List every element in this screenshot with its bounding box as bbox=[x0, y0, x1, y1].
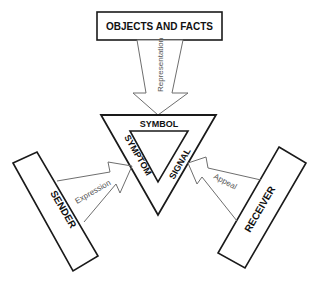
representation-arrow: Representation bbox=[133, 38, 188, 115]
receiver-node: RECEIVER bbox=[218, 147, 306, 268]
expression-label: Expression bbox=[74, 178, 113, 206]
sign-triangle: SYMBOL SYMPTOM SIGNAL bbox=[101, 115, 216, 215]
appeal-label: Appeal bbox=[212, 172, 238, 192]
organon-diagram: OBJECTS AND FACTS Representation SYMBOL … bbox=[0, 0, 317, 283]
representation-label: Representation bbox=[156, 38, 165, 92]
symbol-label: SYMBOL bbox=[140, 119, 179, 129]
objects-and-facts-node: OBJECTS AND FACTS bbox=[97, 12, 222, 40]
sender-node: SENDER bbox=[13, 152, 98, 271]
objects-and-facts-label: OBJECTS AND FACTS bbox=[106, 21, 213, 32]
